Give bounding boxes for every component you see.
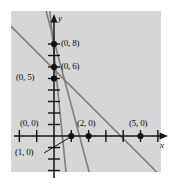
point-label-0-5: (0, 5) xyxy=(16,73,34,82)
y-axis-label: y xyxy=(58,14,62,23)
coordinate-graph-figure: (0, 8) (0, 6) (0, 5) (0, 0) (1, 0) (2, 0… xyxy=(0,0,173,187)
point-2-0 xyxy=(86,133,92,139)
point-label-1-0: (1, 0) xyxy=(15,148,33,157)
point-0-8 xyxy=(51,41,57,47)
point-label-5-0: (5, 0) xyxy=(129,119,147,128)
point-label-0-6: (0, 6) xyxy=(61,62,79,71)
leader-line-1-0 xyxy=(44,138,70,154)
point-0-6 xyxy=(51,64,57,70)
point-label-2-0: (2, 0) xyxy=(77,119,95,128)
graph-canvas xyxy=(0,0,173,187)
point-1-0 xyxy=(68,133,74,139)
point-0-5 xyxy=(51,75,57,81)
point-label-0-8: (0, 8) xyxy=(61,39,79,48)
x-axis-label: x xyxy=(160,141,164,150)
point-label-0-0: (0, 0) xyxy=(20,119,38,128)
point-5-0 xyxy=(137,133,143,139)
line-0-5-to-5-0 xyxy=(11,26,161,176)
y-axis xyxy=(51,14,58,178)
